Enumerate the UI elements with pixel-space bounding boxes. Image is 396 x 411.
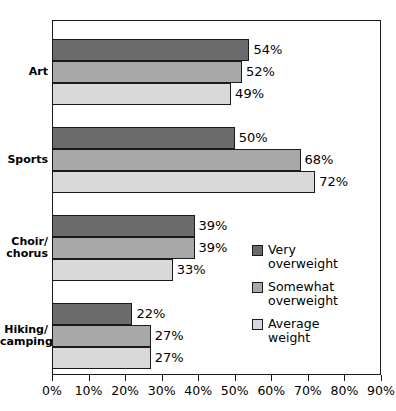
bar-value-label: 72% xyxy=(315,171,348,193)
axis-tick xyxy=(52,375,53,381)
category-label-line: camping xyxy=(0,336,48,348)
axis-tick-label: 60% xyxy=(251,383,291,398)
axis-tick xyxy=(381,375,382,381)
category-label-line: chorus xyxy=(0,248,48,260)
bar-value-label: 27% xyxy=(151,347,184,369)
category-label-0: Art xyxy=(0,66,48,78)
legend-label-line: Very xyxy=(268,243,338,257)
axis-tick xyxy=(162,375,163,381)
legend-swatch-icon xyxy=(252,282,263,293)
bar-value-label: 39% xyxy=(195,237,228,259)
bar-value-label: 54% xyxy=(249,39,282,61)
bar xyxy=(52,347,151,369)
legend-item-1[interactable]: Somewhatoverweight xyxy=(252,280,372,308)
legend-swatch-icon xyxy=(252,245,263,256)
axis-tick xyxy=(235,375,236,381)
chart-title-clipped xyxy=(0,0,396,7)
bar xyxy=(52,127,235,149)
bar-value-label: 52% xyxy=(242,61,275,83)
axis-tick-label: 70% xyxy=(288,383,328,398)
chart-legend: VeryoverweightSomewhatoverweightAveragew… xyxy=(252,243,372,354)
bar-value-label: 49% xyxy=(231,83,264,105)
legend-label-line: Somewhat xyxy=(268,280,338,294)
category-label-1: Sports xyxy=(0,154,48,166)
legend-label-line: Average xyxy=(268,317,319,331)
axis-tick xyxy=(125,375,126,381)
bar xyxy=(52,303,132,325)
legend-label-line: weight xyxy=(268,331,319,345)
legend-label: Veryoverweight xyxy=(268,243,338,271)
axis-tick xyxy=(198,375,199,381)
bar-value-label: 50% xyxy=(235,127,268,149)
category-label-line: Sports xyxy=(0,154,48,166)
category-label-line: Art xyxy=(0,66,48,78)
bar xyxy=(52,61,242,83)
axis-tick-label: 30% xyxy=(142,383,182,398)
category-label-3: Hiking/camping xyxy=(0,324,48,348)
legend-label-line: overweight xyxy=(268,294,338,308)
bar-value-label: 68% xyxy=(301,149,334,171)
bar-value-label: 22% xyxy=(132,303,165,325)
category-axis-labels: ArtSportsChoir/chorusHiking/camping xyxy=(0,0,48,411)
axis-tick xyxy=(308,375,309,381)
axis-tick-label: 50% xyxy=(215,383,255,398)
bar xyxy=(52,259,173,281)
bar-value-label: 33% xyxy=(173,259,206,281)
axis-tick xyxy=(271,375,272,381)
bar xyxy=(52,215,195,237)
axis-tick-label: 20% xyxy=(105,383,145,398)
bar-value-label: 27% xyxy=(151,325,184,347)
legend-label: Averageweight xyxy=(268,317,319,345)
category-label-2: Choir/chorus xyxy=(0,236,48,260)
bar-value-label: 39% xyxy=(195,215,228,237)
bar xyxy=(52,325,151,347)
axis-tick-label: 80% xyxy=(324,383,364,398)
bar xyxy=(52,237,195,259)
bar xyxy=(52,149,301,171)
bar xyxy=(52,39,249,61)
legend-label: Somewhatoverweight xyxy=(268,280,338,308)
bar-chart: ArtSportsChoir/chorusHiking/camping 54%5… xyxy=(0,0,396,411)
legend-item-0[interactable]: Veryoverweight xyxy=(252,243,372,271)
axis-tick xyxy=(344,375,345,381)
legend-swatch-icon xyxy=(252,319,263,330)
legend-label-line: overweight xyxy=(268,257,338,271)
axis-tick-label: 0% xyxy=(32,383,72,398)
axis-tick xyxy=(89,375,90,381)
bar xyxy=(52,83,231,105)
axis-tick-label: 10% xyxy=(69,383,109,398)
bar xyxy=(52,171,315,193)
legend-item-2[interactable]: Averageweight xyxy=(252,317,372,345)
axis-tick-label: 40% xyxy=(178,383,218,398)
axis-tick-label: 90% xyxy=(361,383,396,398)
